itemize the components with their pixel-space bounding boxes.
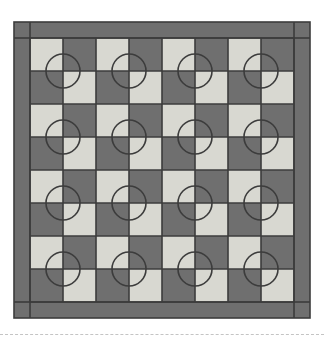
quilt-pattern-illustration [0,0,324,343]
artwork-canvas [0,0,324,343]
page-divider [0,334,324,335]
